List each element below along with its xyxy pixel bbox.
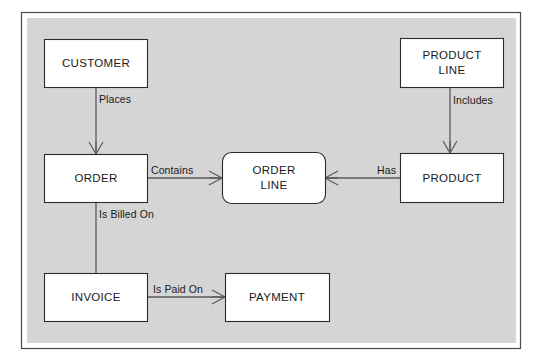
entity-product-line-label-line1: PRODUCT [423, 49, 482, 61]
entity-payment[interactable]: PAYMENT [226, 274, 330, 322]
entity-order[interactable]: ORDER [45, 155, 148, 203]
relationship-label-is-paid-on: Is Paid On [153, 283, 203, 295]
relationship-label-includes: Includes [453, 94, 493, 106]
entity-customer-label: CUSTOMER [62, 57, 130, 69]
relationship-label-contains: Contains [151, 164, 193, 176]
er-diagram-svg: CUSTOMER ORDER INVOICE PAYMENT ORDER LIN… [0, 0, 542, 362]
entity-order-line-box[interactable] [223, 153, 326, 204]
er-diagram-canvas: CUSTOMER ORDER INVOICE PAYMENT ORDER LIN… [0, 0, 542, 362]
entity-order-line-label-line2: LINE [261, 179, 288, 191]
relationship-label-is-billed-on: Is Billed On [99, 208, 154, 220]
entity-order-label: ORDER [74, 172, 117, 184]
relationship-label-has: Has [377, 164, 396, 176]
entity-customer[interactable]: CUSTOMER [45, 40, 148, 88]
entity-payment-label: PAYMENT [249, 291, 305, 303]
entity-product-line-label-line2: LINE [439, 64, 466, 76]
entity-order-line-label-line1: ORDER [252, 164, 295, 176]
relationship-label-places: Places [99, 93, 131, 105]
entity-invoice-label: INVOICE [71, 291, 120, 303]
entity-product-label: PRODUCT [423, 172, 482, 184]
entity-product-line[interactable]: PRODUCT LINE [401, 39, 504, 88]
entity-invoice[interactable]: INVOICE [45, 274, 148, 322]
entity-product-line-box[interactable] [401, 39, 504, 88]
entity-order-line[interactable]: ORDER LINE [223, 153, 326, 204]
entity-product[interactable]: PRODUCT [401, 154, 504, 203]
